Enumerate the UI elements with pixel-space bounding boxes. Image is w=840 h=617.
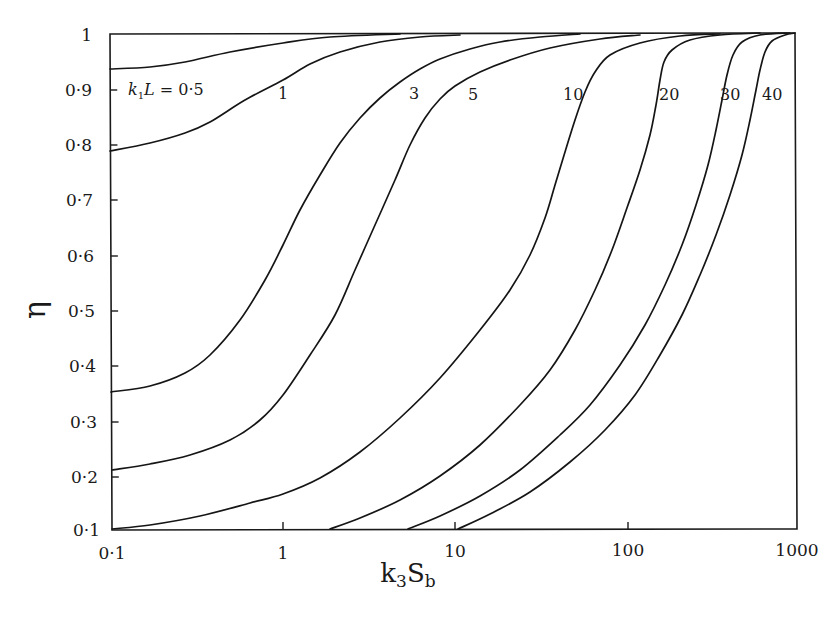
x-tick-label: 0·1 (98, 543, 125, 563)
label-30: 30 (720, 85, 740, 104)
plot-border (110, 33, 797, 530)
y-tick-label: 0·4 (69, 356, 96, 376)
curves (110, 33, 795, 529)
y-tick-label: 0·9 (65, 80, 92, 100)
label-3: 3 (409, 84, 419, 103)
y-tick-label: 1 (81, 25, 92, 45)
curve-k2L-40 (458, 33, 795, 529)
y-tick-label: 0·8 (65, 135, 92, 155)
x-tick-label: 10 (444, 541, 466, 561)
plot-frame (110, 33, 797, 530)
curve-k2L-0-5 (110, 34, 400, 69)
y-tick-label: 0·5 (68, 301, 95, 321)
curve-labels: k1L = 0·513510203040 (128, 80, 782, 104)
label-0-5: k1L = 0·5 (128, 80, 204, 101)
x-tick-label: 1 (278, 543, 289, 563)
y-tick-label: 0·1 (73, 520, 100, 540)
label-1: 1 (278, 84, 288, 103)
label-10: 10 (563, 85, 583, 104)
y-tick-label: 0·3 (70, 412, 97, 432)
y-tick-label: 0·2 (71, 467, 98, 487)
y-tick-label: 0·6 (67, 246, 94, 266)
label-20: 20 (659, 85, 679, 104)
curve-k2L-20 (330, 33, 760, 529)
x-tick-label: 1000 (775, 540, 818, 560)
y-axis-title: η (17, 301, 52, 319)
curve-k2L-5 (112, 35, 640, 470)
efficiency-chart: 10·90·80·70·60·50·40·30·20·1 0·111010010… (0, 0, 840, 617)
x-axis-title: k3Sb (380, 558, 435, 591)
y-tick-label: 0·7 (66, 190, 93, 210)
x-tick-label: 100 (612, 540, 644, 560)
label-5: 5 (468, 85, 478, 104)
label-40: 40 (762, 85, 782, 104)
curve-k2L-10 (112, 34, 720, 529)
